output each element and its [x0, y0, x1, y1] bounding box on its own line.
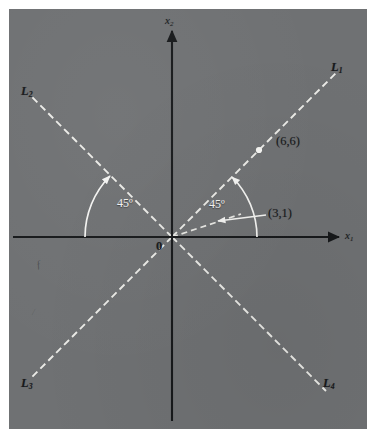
- point-marker-6-6: [256, 147, 262, 153]
- line-label-L3: L3: [21, 377, 33, 391]
- line-L4: [172, 237, 326, 391]
- axis-label-x2: x2: [165, 15, 173, 28]
- coordinate-plot: [9, 9, 367, 429]
- angle-label-left: 45º: [117, 197, 133, 209]
- leader-line-point-3-1: [218, 215, 266, 221]
- origin-label: 0: [156, 240, 162, 253]
- angle-arc-left: [85, 176, 110, 237]
- line-L2: [31, 96, 172, 237]
- line-L3: [31, 237, 172, 378]
- line-label-L2: L2: [21, 85, 33, 99]
- line-label-L4: L4: [323, 377, 335, 391]
- line-label-L1: L1: [331, 61, 343, 75]
- plot-panel: L1 L2 L3 L4 x2 x1 0 (6,6) (3,1) 45º 45º …: [9, 9, 367, 429]
- point-label-6-6: (6,6): [276, 135, 300, 148]
- point-label-3-1: (3,1): [268, 207, 292, 220]
- angle-label-right: 45º: [209, 198, 225, 210]
- angle-arc-right: [232, 177, 257, 237]
- figure-container: L1 L2 L3 L4 x2 x1 0 (6,6) (3,1) 45º 45º …: [0, 0, 377, 437]
- axis-label-x1: x1: [345, 230, 353, 243]
